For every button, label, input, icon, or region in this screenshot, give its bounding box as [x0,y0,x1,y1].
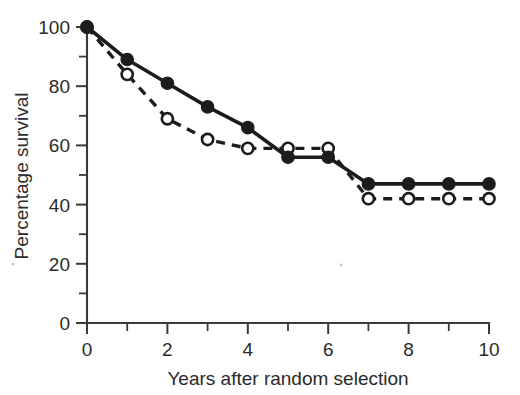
data-point-dashed-open-circles-year-9 [443,193,454,204]
data-point-dashed-open-circles-year-1 [122,69,133,80]
y-axis-minor-ticks [79,57,87,294]
data-point-solid-filled-circles-year-7 [362,178,374,190]
data-point-solid-filled-circles-year-9 [443,178,455,190]
data-point-dashed-open-circles-year-4 [242,143,253,154]
data-point-solid-filled-circles-year-4 [242,121,254,133]
data-point-dashed-open-circles-year-10 [483,193,494,204]
y-tick-label-80: 80 [49,76,70,97]
chart-canvas: 100 80 60 40 20 0 0 2 4 6 8 10 Years aft… [0,0,520,395]
y-tick-label-100: 100 [38,17,70,38]
y-tick-label-60: 60 [49,135,70,156]
series-layer [81,21,495,204]
data-point-dashed-open-circles-year-7 [363,193,374,204]
data-point-solid-filled-circles-year-2 [161,77,173,89]
x-tick-label-0: 0 [82,339,93,360]
data-point-dashed-open-circles-year-8 [403,193,414,204]
x-tick-label-6: 6 [323,339,334,360]
data-point-solid-filled-circles-year-1 [121,53,133,65]
x-tick-label-2: 2 [162,339,173,360]
data-point-solid-filled-circles-year-5 [282,151,294,163]
x-axis-title: Years after random selection [167,368,408,389]
data-point-solid-filled-circles-year-10 [483,178,495,190]
scan-speck [340,264,343,267]
x-tick-label-4: 4 [243,339,254,360]
x-axis-minor-ticks [127,323,449,331]
series-line-dashed-open-circles [87,27,489,199]
y-tick-label-0: 0 [59,313,70,334]
y-axis-title: Percentage survival [11,93,32,260]
data-point-solid-filled-circles-year-8 [402,178,414,190]
x-tick-label-10: 10 [478,339,499,360]
data-point-solid-filled-circles-year-6 [322,151,334,163]
scan-speck [11,262,14,265]
data-point-solid-filled-circles-year-0 [81,21,93,33]
y-tick-label-40: 40 [49,195,70,216]
y-tick-label-20: 20 [49,254,70,275]
survival-curve-figure: 100 80 60 40 20 0 0 2 4 6 8 10 Years aft… [0,0,520,395]
data-point-dashed-open-circles-year-2 [162,113,173,124]
data-point-solid-filled-circles-year-3 [201,101,213,113]
data-point-dashed-open-circles-year-3 [202,134,213,145]
x-tick-label-8: 8 [403,339,414,360]
